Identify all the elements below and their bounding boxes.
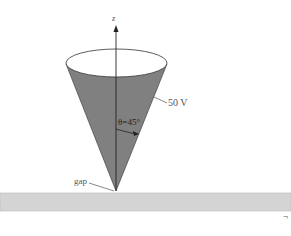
voltage-leader-line — [154, 97, 167, 103]
gap-leader-line — [89, 183, 114, 191]
gap-label: gap — [74, 176, 87, 186]
corner-mark: ¬ — [283, 211, 288, 221]
ground-plate — [0, 193, 291, 211]
z-axis-arrowhead-icon — [114, 25, 119, 32]
cone-top-opening — [66, 49, 167, 77]
voltage-label: 50 V — [168, 97, 188, 108]
cone-diagram — [0, 0, 291, 236]
angle-label: θ=45° — [118, 117, 140, 127]
z-axis-label: z — [112, 14, 115, 23]
cone-body — [66, 64, 167, 191]
